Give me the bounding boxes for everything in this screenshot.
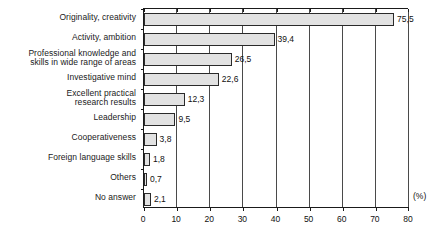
gridline-40: [276, 9, 277, 207]
gridline-70: [375, 9, 376, 207]
category-label: No answer: [95, 193, 136, 203]
category-axis-labels: Originality, creativityActivity, ambitio…: [0, 0, 140, 240]
category-label: Activity, ambition: [72, 33, 136, 43]
bar: [144, 133, 157, 146]
gridline-80: [408, 9, 409, 207]
category-label: Foreign language skills: [48, 153, 136, 163]
bar: [144, 93, 185, 106]
tick-top-80: [408, 9, 409, 12]
x-tick-label-50: 50: [304, 215, 313, 224]
x-tick-label-10: 10: [171, 215, 180, 224]
tick-bottom-80: [408, 207, 409, 211]
category-tick: [141, 29, 144, 30]
category-label-line: Cooperativeness: [71, 133, 136, 143]
category-tick: [141, 169, 144, 170]
category-label: Investigative mind: [67, 73, 136, 83]
plot-area: 75,539,426,522,612,39,53,81,80,72,1: [143, 8, 408, 208]
category-label-line: Investigative mind: [67, 73, 136, 83]
x-tick-label-0: 0: [141, 215, 146, 224]
bar: [144, 113, 175, 126]
x-tick-label-20: 20: [205, 215, 214, 224]
bar: [144, 13, 394, 26]
bar-value-label: 3,8: [160, 135, 172, 144]
bar: [144, 53, 232, 66]
category-label-line: No answer: [95, 193, 136, 203]
x-tick-label-80: 80: [403, 215, 412, 224]
tick-bottom-40: [277, 207, 278, 211]
x-tick-label-40: 40: [271, 215, 280, 224]
bar-value-label: 9,5: [178, 115, 190, 124]
category-label: Originality, creativity: [59, 13, 136, 23]
category-label: Cooperativeness: [71, 133, 136, 143]
category-tick: [141, 9, 144, 10]
bar-value-label: 39,4: [278, 35, 295, 44]
bar-value-label: 22,6: [222, 75, 239, 84]
bar-value-label: 1,8: [153, 155, 165, 164]
bar: [144, 153, 150, 166]
category-label: Professional knowledge andskills in wide…: [28, 49, 136, 68]
category-tick: [141, 69, 144, 70]
category-label-line: Leadership: [93, 113, 136, 123]
x-tick-label-30: 30: [238, 215, 247, 224]
category-label: Others: [110, 173, 136, 183]
category-label: Excellent practicalresearch results: [67, 89, 136, 108]
bar-value-label: 75,5: [397, 15, 414, 24]
tick-bottom-50: [310, 207, 311, 211]
x-tick-label-60: 60: [337, 215, 346, 224]
category-tick: [141, 149, 144, 150]
bar-value-label: 12,3: [188, 95, 205, 104]
tick-bottom-60: [343, 207, 344, 211]
tick-bottom-0: [144, 207, 145, 211]
bar-value-label: 0,7: [150, 175, 162, 184]
tick-bottom-70: [376, 207, 377, 211]
gridline-60: [342, 9, 343, 207]
category-tick: [141, 109, 144, 110]
category-tick: [141, 129, 144, 130]
category-label-line: Activity, ambition: [72, 33, 136, 43]
category-label: Leadership: [93, 113, 136, 123]
unit-label: (%): [413, 192, 426, 201]
category-label-line: skills in wide range of areas: [28, 58, 136, 68]
bar: [144, 73, 219, 86]
category-label-line: Others: [110, 173, 136, 183]
category-label-line: research results: [67, 98, 136, 108]
bar-value-label: 2,1: [154, 195, 166, 204]
category-tick: [141, 49, 144, 50]
category-label-line: Originality, creativity: [59, 13, 136, 23]
bar: [144, 193, 151, 206]
gridline-50: [309, 9, 310, 207]
category-tick: [141, 189, 144, 190]
bar: [144, 33, 275, 46]
x-tick-label-70: 70: [370, 215, 379, 224]
tick-bottom-20: [210, 207, 211, 211]
bar: [144, 173, 147, 186]
category-tick: [141, 89, 144, 90]
bar-chart: Originality, creativityActivity, ambitio…: [0, 0, 431, 240]
category-label-line: Foreign language skills: [48, 153, 136, 163]
tick-bottom-10: [177, 207, 178, 211]
bar-value-label: 26,5: [235, 55, 252, 64]
tick-bottom-30: [243, 207, 244, 211]
